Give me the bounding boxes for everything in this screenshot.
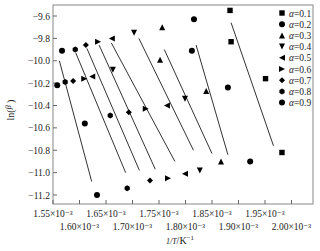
y-tick-label: −9.6 <box>33 12 50 22</box>
x-tick-label: 1.85×10⁻³ <box>192 209 231 219</box>
y-tick-label: −10.8 <box>28 146 50 156</box>
y-tick-label: −10.4 <box>28 101 50 111</box>
y-axis-label: ln(β ) <box>4 100 17 121</box>
x-tick-label: 1.80×10⁻³ <box>166 222 205 232</box>
legend-label: α=0.1 <box>289 9 311 19</box>
legend-label: α=0.3 <box>289 31 311 41</box>
legend-label: α=0.9 <box>289 98 311 108</box>
y-tick-label: −10.0 <box>28 56 50 66</box>
legend-label: α=0.5 <box>289 53 311 63</box>
y-tick-label: −9.8 <box>33 34 50 44</box>
data-point <box>227 8 232 13</box>
legend: α=0.1α=0.2α=0.3α=0.4α=0.5α=0.6α=0.7α=0.8… <box>279 9 311 109</box>
x-tick-label: 1.60×10⁻³ <box>60 222 99 232</box>
x-axis-label: 1/T/K−1 <box>166 234 195 246</box>
legend-label: α=0.2 <box>289 20 311 30</box>
data-point <box>94 192 100 198</box>
legend-marker <box>279 10 284 15</box>
data-point <box>247 158 253 164</box>
svg-text:ln(β ): ln(β ) <box>4 100 17 121</box>
chart: −9.6−9.8−10.0−10.2−10.4−10.6−10.8−11.0−1… <box>0 0 320 251</box>
x-tick-label: 1.70×10⁻³ <box>113 222 152 232</box>
y-tick-label: −11.2 <box>28 191 50 201</box>
data-point <box>279 150 284 155</box>
svg-text:1/T/K−1: 1/T/K−1 <box>166 234 195 246</box>
legend-marker <box>279 21 285 27</box>
data-point <box>263 76 268 81</box>
y-tick-label: −10.6 <box>28 123 50 133</box>
data-point <box>54 82 60 88</box>
x-tick-label: 1.65×10⁻³ <box>86 209 125 219</box>
x-tick-label: 1.90×10⁻³ <box>219 222 258 232</box>
legend-label: α=0.6 <box>289 65 311 75</box>
y-tick-label: −11.0 <box>28 168 50 178</box>
x-tick-label: 2.00×10⁻³ <box>272 222 311 232</box>
legend-label: α=0.8 <box>289 87 311 97</box>
data-point <box>228 39 233 44</box>
legend-label: α=0.4 <box>289 42 311 52</box>
data-point <box>59 48 65 54</box>
data-point <box>82 120 88 126</box>
legend-marker <box>279 100 285 106</box>
x-tick-label: 1.75×10⁻³ <box>139 209 178 219</box>
x-tick-label: 1.95×10⁻³ <box>245 209 284 219</box>
data-point <box>191 16 197 22</box>
x-tick-label: 1.55×10⁻³ <box>33 209 72 219</box>
data-point <box>189 48 195 54</box>
data-point <box>225 85 231 91</box>
x-axis: 1.55×10⁻³1.65×10⁻³1.75×10⁻³1.85×10⁻³1.95… <box>33 200 311 232</box>
y-tick-label: −10.2 <box>28 79 50 89</box>
legend-label: α=0.7 <box>289 76 311 86</box>
